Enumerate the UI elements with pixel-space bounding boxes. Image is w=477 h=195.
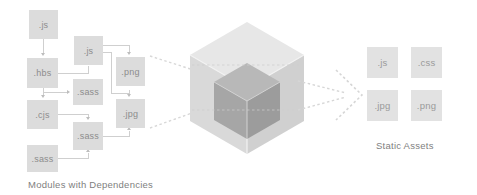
connector-to-js2 (88, 66, 89, 74)
asset-label: .css (418, 57, 436, 68)
connector-js-to-hbs (43, 39, 44, 54)
module-box[interactable]: .sass (27, 145, 58, 172)
module-label: .jpg (123, 109, 138, 119)
module-box[interactable]: .js (29, 10, 58, 39)
module-label: .hbs (34, 68, 52, 78)
arrowhead-hbs-top (41, 53, 45, 56)
connector-sass3-up (88, 153, 89, 159)
module-box[interactable]: .sass (73, 122, 103, 150)
module-box[interactable]: .jpg (116, 99, 145, 128)
connector-js2-to-png (103, 45, 130, 46)
arrowhead-png-top (127, 52, 131, 55)
module-label: .sass (77, 87, 99, 97)
dashed-line-out-top (298, 81, 346, 93)
arrowhead-sass2-top (86, 117, 90, 120)
asset-box[interactable]: .png (411, 90, 442, 121)
dashed-arrowhead (336, 70, 362, 120)
arrowhead-cjs-top (41, 95, 45, 98)
caption-modules: Modules with Dependencies (28, 179, 153, 190)
diagram-canvas: .js .js .hbs .png .sass .cjs .jpg .sass … (0, 0, 477, 195)
asset-label: .js (377, 57, 387, 68)
module-label: .cjs (35, 110, 49, 120)
asset-box[interactable]: .css (411, 47, 442, 78)
arrowhead-sass1-left (67, 90, 70, 94)
module-box[interactable]: .js (74, 36, 103, 65)
asset-label: .png (417, 100, 436, 111)
module-box[interactable]: .hbs (27, 58, 58, 88)
asset-label: .jpg (374, 100, 390, 111)
asset-box[interactable]: .jpg (367, 90, 398, 121)
module-label: .png (121, 67, 139, 77)
connector-cjs-right (58, 114, 89, 115)
module-label: .js (39, 20, 49, 30)
module-box[interactable]: .cjs (27, 100, 58, 129)
module-label: .sass (77, 131, 99, 141)
module-label: .sass (31, 154, 53, 164)
connector-sass3-right (58, 158, 89, 159)
bundler-cube (182, 18, 312, 160)
asset-box[interactable]: .js (367, 47, 398, 78)
dashed-line-out-bottom (298, 97, 346, 110)
connector-hbs-to-sass1 (43, 92, 68, 93)
connector-js2-down (111, 52, 112, 93)
connector-hbs-right (58, 73, 89, 74)
arrowhead-jpg-top (127, 94, 131, 97)
connector-sass2-right (103, 136, 130, 137)
module-box[interactable]: .png (116, 57, 145, 86)
module-label: .js (84, 46, 94, 56)
connector-sass2-up (129, 131, 130, 137)
caption-static-assets: Static Assets (376, 140, 434, 151)
module-box[interactable]: .sass (73, 79, 103, 105)
outbound-flow-arrow (296, 58, 368, 132)
